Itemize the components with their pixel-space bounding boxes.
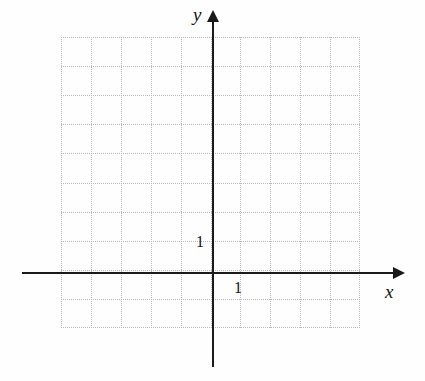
gridline-horizontal [61,124,360,125]
gridline-horizontal [61,270,360,271]
gridline-horizontal [61,327,360,328]
gridline-horizontal [61,153,360,154]
gridline-horizontal [61,299,360,300]
y-axis-line [212,18,214,367]
x-axis-arrow-icon [393,267,405,279]
grid-area [61,37,360,328]
y-axis-tick-label-1: 1 [196,234,204,250]
x-axis-tick-label-1: 1 [234,280,242,296]
gridline-horizontal [61,183,360,184]
x-axis-line [22,272,396,274]
gridline-horizontal [61,66,360,67]
gridline-horizontal [61,241,360,242]
y-axis-arrow-icon [207,10,219,22]
coordinate-plane-figure: y x 1 1 [0,0,425,381]
y-axis-label: y [193,5,201,24]
gridline-horizontal [61,37,360,38]
gridline-horizontal [61,95,360,96]
gridline-horizontal [61,212,360,213]
x-axis-label: x [385,282,393,301]
